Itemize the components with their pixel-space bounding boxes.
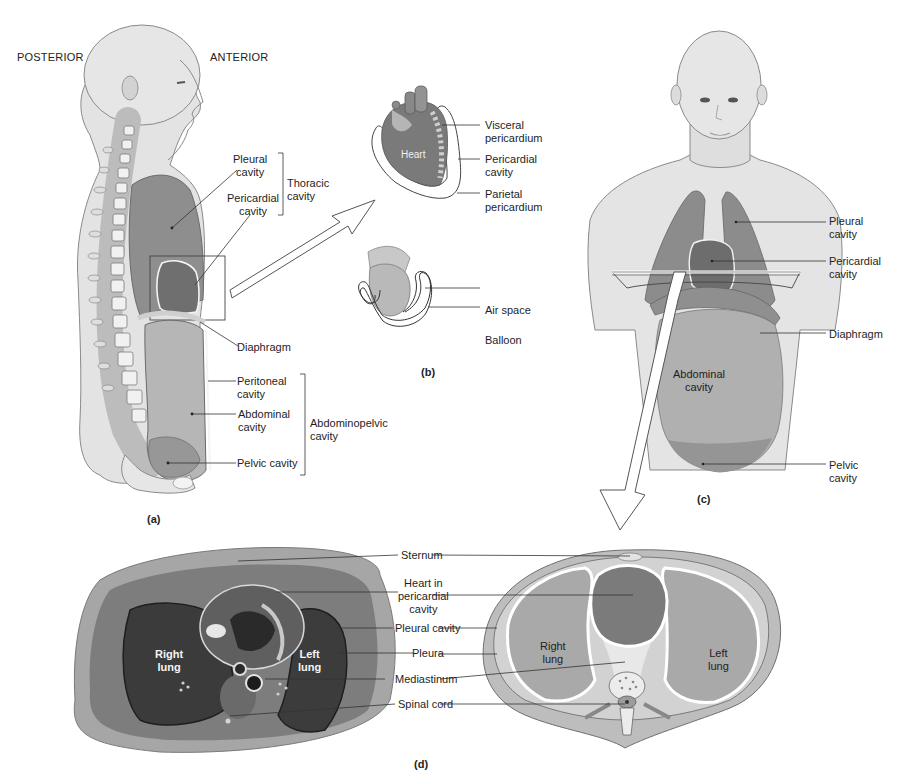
label-a-pelvic-cavity: Pelvic cavity <box>237 457 298 470</box>
label-heart: Heart <box>401 148 425 161</box>
label-parietal-pericardium: Parietal pericardium <box>485 188 542 214</box>
label-a-diaphragm: Diaphragm <box>237 341 291 354</box>
panel-d-photo-section <box>74 547 395 752</box>
label-air-space: Air space <box>485 304 531 317</box>
label-peritoneal-cavity: Peritoneal cavity <box>237 375 287 401</box>
panel-c-anterior-body <box>588 31 842 472</box>
label-drawn-left-lung: Left lung <box>708 647 729 673</box>
label-c-pleural-cavity: Pleural cavity <box>829 215 863 241</box>
caption-b: (b) <box>421 366 435 379</box>
label-b-pericardial-cavity: Pericardial cavity <box>485 153 537 179</box>
label-c-abdominal-cavity: Abdominal cavity <box>673 368 725 394</box>
label-a-pericardial-cavity: Pericardial cavity <box>227 192 279 218</box>
label-heart-in-pericardial-cavity: Heart in pericardial cavity <box>398 577 449 616</box>
caption-d: (d) <box>414 758 428 771</box>
label-c-diaphragm: Diaphragm <box>829 328 883 341</box>
panel-b-heart-pericardium <box>359 86 480 326</box>
anterior-label: ANTERIOR <box>210 51 268 63</box>
caption-a: (a) <box>147 513 160 526</box>
label-pleura: Pleura <box>412 647 444 660</box>
panel-d-drawn-section <box>483 550 781 748</box>
label-visceral-pericardium: Visceral pericardium <box>485 119 542 145</box>
label-d-pleural-cavity: Pleural cavity <box>395 622 460 635</box>
label-a-abdominal-cavity: Abdominal cavity <box>238 408 290 434</box>
body-cavities-figure: POSTERIOR ANTERIOR Pleural cavity Perica… <box>0 0 906 784</box>
posterior-label: POSTERIOR <box>17 51 84 63</box>
label-balloon: Balloon <box>485 334 522 347</box>
label-spinal-cord: Spinal cord <box>398 698 453 711</box>
label-c-pelvic-cavity: Pelvic cavity <box>829 459 858 485</box>
label-mediastinum: Mediastinum <box>395 673 457 686</box>
label-photo-right-lung: Right lung <box>155 648 183 674</box>
label-thoracic-cavity: Thoracic cavity <box>287 177 329 203</box>
label-c-pericardial-cavity: Pericardial cavity <box>829 255 881 281</box>
label-abdominopelvic-cavity: Abdominopelvic cavity <box>310 417 388 443</box>
label-photo-left-lung: Left lung <box>298 648 321 674</box>
figure-artwork <box>0 0 906 784</box>
label-a-pleural-cavity: Pleural cavity <box>233 153 267 179</box>
caption-c: (c) <box>697 493 710 506</box>
label-sternum: Sternum <box>401 549 443 562</box>
label-drawn-right-lung: Right lung <box>540 640 566 666</box>
